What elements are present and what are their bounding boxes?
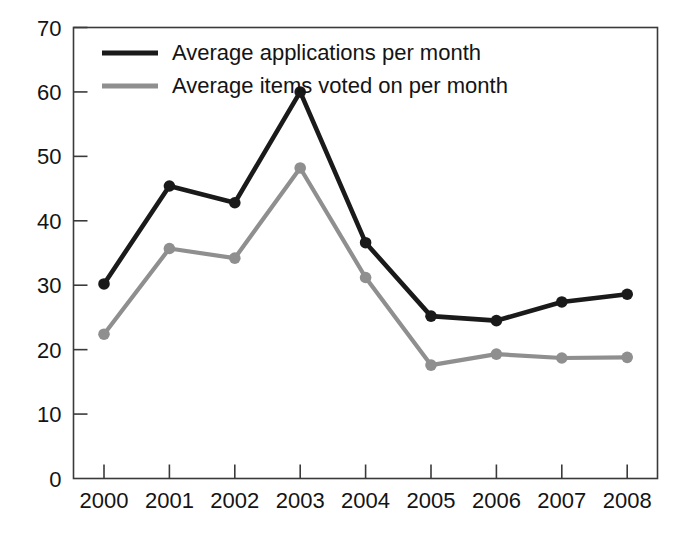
chart-canvas: 010203040506070 200020012002200320042005…: [0, 0, 685, 539]
y-tick-label: 30: [37, 273, 61, 298]
data-point: [164, 180, 176, 192]
data-point: [491, 315, 503, 327]
legend-label-items-voted: Average items voted on per month: [172, 73, 508, 98]
series-line-items-voted: [104, 168, 627, 365]
x-tick-label: 2001: [145, 488, 194, 513]
x-tick-label: 2002: [210, 488, 259, 513]
data-point: [621, 288, 633, 300]
x-tick-label: 2003: [276, 488, 325, 513]
data-point: [425, 359, 437, 371]
data-point: [621, 352, 633, 364]
x-tick-label: 2000: [80, 488, 129, 513]
y-tick-label: 0: [49, 467, 61, 492]
y-tick-label: 20: [37, 338, 61, 363]
y-tick-label: 60: [37, 80, 61, 105]
legend-label-applications: Average applications per month: [172, 40, 481, 65]
y-tick-label: 10: [37, 402, 61, 427]
y-tick-label: 70: [37, 16, 61, 41]
x-tick-label: 2006: [472, 488, 521, 513]
series-line-applications: [104, 92, 627, 321]
data-point: [294, 162, 306, 174]
data-point: [360, 237, 372, 249]
data-point: [360, 272, 372, 284]
line-chart: 010203040506070 200020012002200320042005…: [0, 0, 685, 539]
data-point: [556, 352, 568, 364]
y-axis: 010203040506070: [37, 16, 87, 492]
y-tick-label: 40: [37, 209, 61, 234]
y-tick-label: 50: [37, 144, 61, 169]
x-tick-label: 2008: [603, 488, 652, 513]
data-point: [425, 310, 437, 322]
data-point: [229, 197, 241, 209]
series-layer: [98, 86, 633, 371]
data-point: [229, 252, 241, 264]
data-point: [164, 243, 176, 255]
x-axis: 200020012002200320042005200620072008: [80, 465, 652, 513]
data-point: [98, 328, 110, 340]
x-tick-label: 2007: [537, 488, 586, 513]
x-tick-label: 2004: [341, 488, 390, 513]
chart-legend: Average applications per month Average i…: [102, 40, 508, 98]
x-tick-label: 2005: [407, 488, 456, 513]
data-point: [98, 278, 110, 290]
data-point: [491, 348, 503, 360]
data-point: [556, 296, 568, 308]
